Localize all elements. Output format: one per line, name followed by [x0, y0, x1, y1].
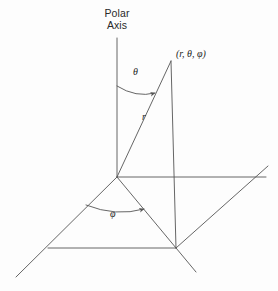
polar-axis-label-line-1: Polar	[84, 7, 150, 19]
point-coordinates-label: (r, θ, φ)	[176, 48, 206, 60]
theta-angle-arc	[117, 86, 155, 94]
polar-axis-label: Polar Axis	[84, 7, 150, 32]
point-projection-line	[171, 61, 176, 248]
plane-edge-front-left	[16, 177, 117, 277]
spherical-coordinates-diagram: Polar Axis (r, θ, φ) θ r φ	[0, 0, 278, 291]
theta-angle-label: θ	[133, 66, 138, 78]
radius-label: r	[142, 112, 146, 123]
plane-diagonal-to-projection	[117, 177, 196, 272]
plane-edge-right-diagonal	[176, 166, 268, 248]
phi-angle-label: φ	[110, 208, 116, 220]
diagram-canvas	[0, 0, 278, 291]
polar-axis-label-line-2: Axis	[84, 19, 150, 31]
